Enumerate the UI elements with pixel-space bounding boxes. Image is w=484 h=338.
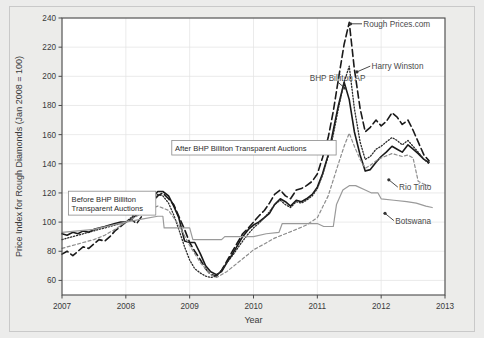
harry-winston-label: Harry Winston xyxy=(372,62,424,71)
after-auctions-note-line: After BHP Billiton Transparent Auctions xyxy=(175,144,307,153)
y-tick-label: 180 xyxy=(42,101,56,110)
y-tick-label: 80 xyxy=(47,247,57,256)
line-chart: 6080100120140160180200220240200720082009… xyxy=(0,0,484,338)
before-auctions-note-line: Before BHP Billiton xyxy=(72,195,136,204)
rough-prices-label: Rough Prices.com xyxy=(363,20,430,29)
y-tick-label: 200 xyxy=(42,72,56,81)
before-auctions-note-line: Transparent Auctions xyxy=(72,204,144,213)
annotation-arrowhead xyxy=(349,22,352,25)
rio-tinto-label: Rio Tinto xyxy=(399,183,432,192)
y-tick-label: 220 xyxy=(42,43,56,52)
bhp-billiton-ap-label: BHP Billiton AP xyxy=(310,74,366,83)
y-tick-label: 60 xyxy=(47,276,57,285)
x-tick-label: 2008 xyxy=(117,302,136,311)
x-tick-label: 2011 xyxy=(309,302,327,311)
annotation-arrowhead xyxy=(383,212,386,215)
x-tick-label: 2012 xyxy=(372,302,391,311)
y-tick-label: 140 xyxy=(42,160,56,169)
chart-figure: 6080100120140160180200220240200720082009… xyxy=(0,0,484,338)
x-tick-label: 2007 xyxy=(53,302,72,311)
x-tick-label: 2009 xyxy=(181,302,200,311)
y-axis-title: Price Index for Rough Diamonds (Jan 2008… xyxy=(14,56,24,257)
y-tick-label: 160 xyxy=(42,131,56,140)
x-axis-title: Year xyxy=(244,315,262,325)
botswana-label: Botswana xyxy=(395,217,431,226)
y-tick-label: 240 xyxy=(42,14,56,23)
x-tick-label: 2010 xyxy=(244,302,263,311)
x-tick-label: 2013 xyxy=(436,302,455,311)
y-tick-label: 100 xyxy=(42,218,56,227)
annotation-arrowhead xyxy=(343,86,346,89)
annotation-arrowhead xyxy=(387,178,390,181)
y-tick-label: 120 xyxy=(42,189,56,198)
